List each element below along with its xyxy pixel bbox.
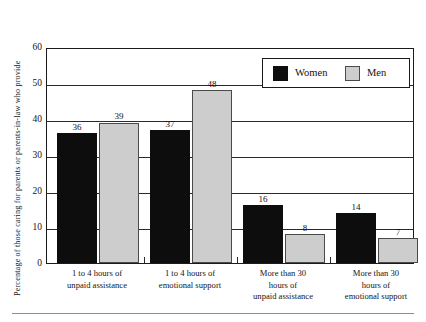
value-label-men-3: 8	[285, 224, 325, 233]
x-label-group-2-line-2: emotional support	[141, 280, 239, 292]
x-label-group-3-line-1: More than 30	[234, 268, 332, 280]
value-label-women-3: 16	[243, 195, 283, 204]
legend-item-women[interactable]: Women	[273, 65, 327, 81]
x-label-group-3-line-2: hours of	[234, 280, 332, 292]
x-label-group-4-line-1: More than 30	[327, 268, 425, 280]
legend-label-men: Men	[367, 68, 386, 79]
gray-square-icon	[345, 66, 360, 81]
bar-group-2: 37 48	[150, 49, 232, 263]
x-label-group-2-line-1: 1 to 4 hours of	[141, 268, 239, 280]
y-tick-30: 30	[20, 151, 42, 161]
legend-item-men[interactable]: Men	[345, 65, 386, 81]
x-tick-3	[330, 257, 331, 263]
x-label-group-1-line-2: unpaid assistance	[48, 280, 146, 292]
bar-chart-figure: Percentage of those caring for parents o…	[0, 0, 426, 322]
x-label-group-4: More than 30 hours of emotional support	[327, 268, 425, 303]
black-square-icon	[273, 66, 288, 81]
bar-men-4[interactable]	[378, 238, 418, 263]
bar-women-3[interactable]	[243, 205, 283, 263]
x-label-group-2: 1 to 4 hours of emotional support	[141, 268, 239, 291]
y-tick-0: 0	[20, 259, 42, 269]
x-label-group-3: More than 30 hours of unpaid assistance	[234, 268, 332, 303]
value-label-women-2: 37	[150, 120, 190, 129]
x-label-group-3-line-3: unpaid assistance	[234, 291, 332, 303]
y-tick-20: 20	[20, 187, 42, 197]
y-axis-tick-labels: 60 50 40 30 20 10 0	[18, 48, 42, 264]
legend-label-women: Women	[295, 68, 327, 79]
x-tick-1	[144, 257, 145, 263]
value-label-men-1: 39	[99, 112, 139, 121]
x-tick-2	[237, 257, 238, 263]
bar-women-2[interactable]	[150, 130, 190, 263]
y-tick-10: 10	[20, 223, 42, 233]
bar-men-2[interactable]	[192, 90, 232, 263]
bar-women-4[interactable]	[336, 213, 376, 263]
bar-men-1[interactable]	[99, 123, 139, 263]
legend: Women Men	[262, 58, 410, 88]
x-label-group-1-line-1: 1 to 4 hours of	[48, 268, 146, 280]
value-label-women-1: 36	[57, 123, 97, 132]
value-label-men-4: 7	[378, 228, 418, 237]
x-label-group-1: 1 to 4 hours of unpaid assistance	[48, 268, 146, 291]
y-axis-title-container: Percentage of those caring for parents o…	[0, 0, 18, 296]
bar-group-1: 36 39	[57, 49, 139, 263]
y-tick-60: 60	[20, 43, 42, 53]
x-axis-category-labels: 1 to 4 hours of unpaid assistance 1 to 4…	[46, 268, 414, 308]
y-tick-50: 50	[20, 79, 42, 89]
x-label-group-4-line-3: emotional support	[327, 291, 425, 303]
bar-men-3[interactable]	[285, 234, 325, 263]
bar-women-1[interactable]	[57, 133, 97, 263]
bottom-divider	[12, 313, 414, 314]
value-label-women-4: 14	[336, 203, 376, 212]
x-label-group-4-line-2: hours of	[327, 280, 425, 292]
value-label-men-2: 48	[192, 80, 232, 89]
y-tick-40: 40	[20, 115, 42, 125]
